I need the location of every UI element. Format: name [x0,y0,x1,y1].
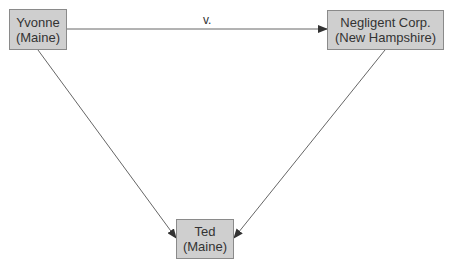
edge-negligent-to-ted [234,50,385,238]
node-ted: Ted (Maine) [176,219,234,259]
node-name: Ted [195,224,216,239]
node-negligent-corp: Negligent Corp. (New Hampshire) [327,10,444,50]
edge-label-versus: v. [203,13,211,27]
node-state: (Maine) [16,30,60,45]
node-name: Yvonne [16,15,59,30]
edge-yvonne-to-ted [38,50,176,238]
node-name: Negligent Corp. [340,15,430,30]
node-state: (New Hampshire) [335,30,436,45]
node-yvonne: Yvonne (Maine) [9,9,67,50]
node-state: (Maine) [183,239,227,254]
